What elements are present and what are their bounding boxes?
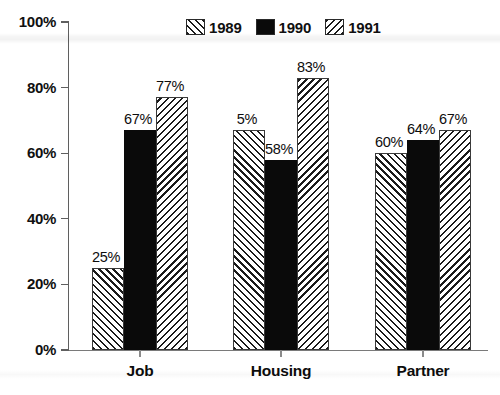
bar-value-label-job-1989: 25% [76,250,136,265]
bar-partner-1990[interactable] [407,140,439,350]
bar-value-label-housing-1989: 5% [217,112,277,127]
bar-job-1990[interactable] [124,130,156,350]
y-axis-tick [61,218,69,219]
x-axis-category-label-housing: Housing [221,362,341,380]
x-axis-tick [280,350,281,357]
y-axis-tick-label: 60% [0,145,56,160]
legend-item-1991: 1991 [325,19,395,35]
bar-value-label-partner-1991: 67% [423,112,483,127]
y-axis-tick-label: 20% [0,276,56,291]
x-axis-tick [422,350,423,357]
legend-label-1989: 1989 [209,20,242,35]
legend-swatch-1990-icon [256,19,275,35]
y-axis-tick [61,349,69,350]
legend-item-1989: 1989 [186,19,256,35]
y-axis-tick-label: 0% [0,342,56,357]
y-axis-tick-label: 40% [0,211,56,226]
y-axis-tick-label: 100% [0,14,56,29]
x-axis-category-label-partner: Partner [363,362,483,380]
bar-job-1991[interactable] [156,97,188,350]
bar-housing-1990[interactable] [265,160,297,350]
x-axis-category-label-job: Job [80,362,200,380]
bar-housing-1989[interactable] [233,130,265,350]
bar-partner-1991[interactable] [439,130,471,350]
legend-item-1990: 1990 [256,19,326,35]
bar-partner-1989[interactable] [375,153,407,350]
legend-swatch-1989-icon [186,19,205,35]
bar-housing-1991[interactable] [297,78,329,350]
y-axis-tick [61,21,69,22]
x-axis-tick [139,350,140,357]
bar-chart: 1989 1990 1991 0%20%40%60%80%100% JobHou… [0,0,500,395]
bar-job-1989[interactable] [92,268,124,350]
y-axis-line [68,22,69,351]
legend-label-1990: 1990 [279,20,312,35]
bar-value-label-housing-1990: 58% [249,142,309,157]
y-axis-tick [61,87,69,88]
bar-value-label-partner-1989: 60% [359,135,419,150]
legend-label-1991: 1991 [348,20,381,35]
chart-legend: 1989 1990 1991 [186,17,395,37]
y-axis-tick [61,284,69,285]
y-axis-tick [61,153,69,154]
bar-value-label-job-1991: 77% [140,79,200,94]
y-axis-tick-label: 80% [0,80,56,95]
bar-value-label-housing-1991: 83% [281,60,341,75]
legend-swatch-1991-icon [325,19,344,35]
bar-value-label-job-1990: 67% [108,112,168,127]
